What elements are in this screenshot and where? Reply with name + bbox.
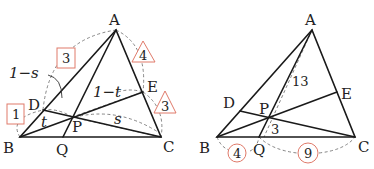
label-D: D [28, 96, 40, 114]
pointer-arc [48, 75, 62, 98]
label-B: B [3, 139, 14, 157]
label-E: E [341, 85, 352, 103]
dash-1t [118, 90, 143, 92]
label-B: B [199, 139, 210, 157]
ratio-triangle-4-value: 4 [139, 48, 147, 63]
ratio-circle-4-value: 4 [233, 146, 241, 161]
label-1-minus-s: 1−s [9, 64, 39, 82]
right-diagram: A B C D E P Q 13 3 4 9 [199, 11, 369, 163]
label-AP-13: 13 [292, 74, 309, 89]
ratio-box-1-value: 1 [12, 107, 20, 122]
label-P: P [259, 100, 269, 118]
label-D: D [223, 94, 235, 112]
label-P: P [72, 118, 82, 136]
label-s: s [114, 110, 122, 128]
ratio-triangle-3-value: 3 [161, 99, 169, 114]
label-A: A [108, 11, 120, 29]
label-t: t [41, 113, 48, 131]
arc-9-C [319, 137, 355, 153]
label-1-minus-t: 1−t [93, 83, 122, 101]
label-C: C [163, 138, 174, 156]
left-diagram: A B C D E P Q 1−s 1−t t s 3 1 4 3 [3, 11, 176, 159]
label-A: A [304, 11, 316, 29]
label-C: C [358, 138, 369, 156]
label-Q: Q [56, 141, 68, 159]
arc-EC [143, 92, 162, 137]
label-Q: Q [253, 141, 265, 159]
ratio-box-3-value: 3 [62, 51, 70, 66]
cevian-CD [240, 111, 355, 137]
label-E: E [147, 78, 158, 96]
ratio-circle-9-value: 9 [304, 146, 312, 161]
label-PQ-3: 3 [271, 122, 279, 137]
geometry-figure: A B C D E P Q 1−s 1−t t s 3 1 4 3 A B [0, 0, 374, 169]
